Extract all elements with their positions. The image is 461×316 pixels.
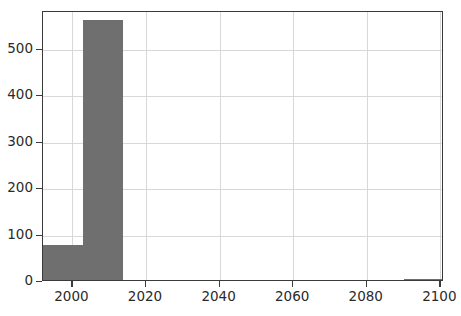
gridline-x-2040	[220, 12, 221, 280]
plot-area	[42, 11, 443, 281]
x-tick-label-2020: 2020	[110, 290, 180, 304]
x-tick-2000	[71, 281, 72, 287]
x-tick-label-2000: 2000	[36, 290, 106, 304]
y-tick-label-400: 400	[0, 88, 33, 102]
gridline-x-2000	[72, 12, 73, 280]
histogram-bar	[43, 245, 83, 280]
x-tick-label-2040: 2040	[184, 290, 254, 304]
y-tick-label-0: 0	[0, 274, 33, 288]
y-tick-200	[36, 188, 42, 189]
x-tick-label-2080: 2080	[331, 290, 401, 304]
gridline-x-2080	[367, 12, 368, 280]
gridline-x-2100	[440, 12, 441, 280]
x-tick-2020	[145, 281, 146, 287]
y-tick-0	[36, 281, 42, 282]
y-tick-300	[36, 142, 42, 143]
x-tick-2080	[366, 281, 367, 287]
y-tick-label-300: 300	[0, 135, 33, 149]
x-tick-label-2100: 2100	[404, 290, 461, 304]
gridline-x-2020	[146, 12, 147, 280]
y-tick-label-500: 500	[0, 42, 33, 56]
y-tick-100	[36, 235, 42, 236]
y-tick-label-100: 100	[0, 228, 33, 242]
histogram-bar	[404, 279, 443, 281]
y-tick-500	[36, 49, 42, 50]
x-tick-label-2060: 2060	[257, 290, 327, 304]
histogram-bar	[83, 20, 123, 280]
x-tick-2060	[292, 281, 293, 287]
y-tick-label-200: 200	[0, 181, 33, 195]
y-tick-400	[36, 95, 42, 96]
gridline-x-2060	[293, 12, 294, 280]
x-tick-2100	[439, 281, 440, 287]
x-tick-2040	[219, 281, 220, 287]
